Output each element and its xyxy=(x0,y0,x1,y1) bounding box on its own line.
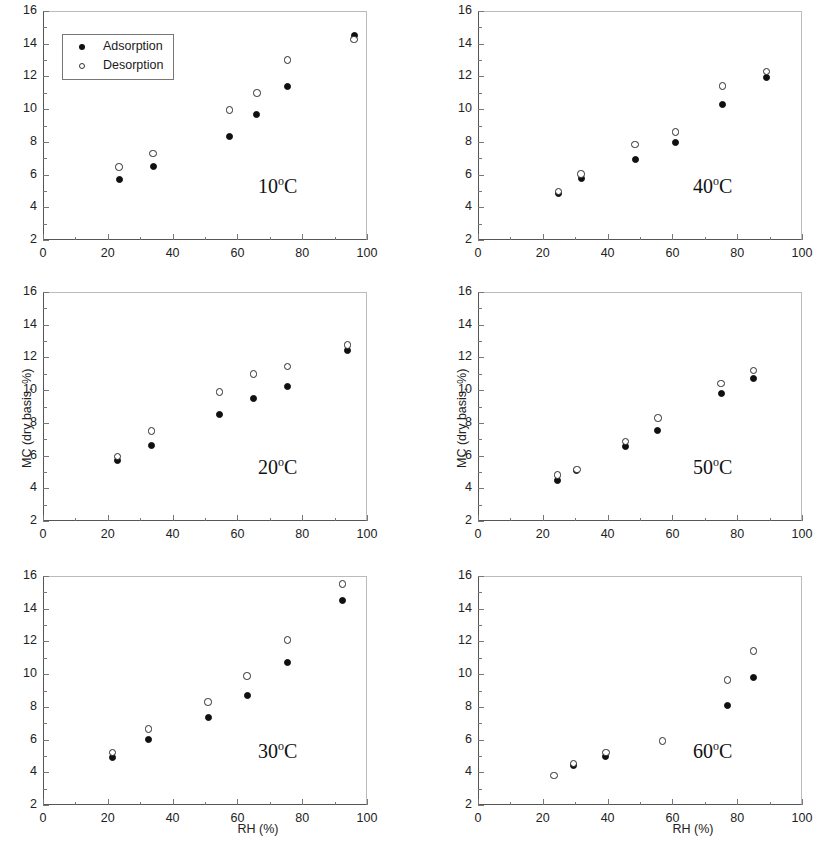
x-tick-label: 100 xyxy=(782,811,822,825)
y-tick xyxy=(478,756,482,757)
y-tick xyxy=(478,723,482,724)
y-tick xyxy=(478,609,484,610)
y-tick-label: 4 xyxy=(450,765,472,778)
y-tick-label: 6 xyxy=(450,733,472,746)
x-tick-label: 40 xyxy=(588,811,628,825)
x-axis-title: RH (%) xyxy=(633,822,753,836)
desorption-point xyxy=(724,676,732,684)
x-tick xyxy=(608,799,609,805)
x-tick xyxy=(672,799,673,805)
x-tick xyxy=(510,802,511,806)
x-axis-title: RH (%) xyxy=(198,822,318,836)
y-tick xyxy=(478,691,482,692)
desorption-point xyxy=(750,647,758,655)
y-tick xyxy=(478,674,484,675)
adsorption-point xyxy=(724,702,731,709)
temperature-value: 60 xyxy=(693,740,713,762)
x-tick-label: 20 xyxy=(523,811,563,825)
desorption-point xyxy=(602,749,610,757)
y-axis-title: MC (dry basis, %) xyxy=(455,369,469,468)
y-tick-label: 2 xyxy=(450,798,472,811)
plot-panel-60c: 02040608010024681012141660oC xyxy=(0,0,829,846)
y-tick xyxy=(478,707,484,708)
y-tick xyxy=(478,805,484,806)
x-tick xyxy=(640,802,641,806)
adsorption-point xyxy=(750,674,757,681)
y-tick xyxy=(478,592,482,593)
y-tick-label: 16 xyxy=(450,569,472,582)
y-tick-label: 14 xyxy=(450,602,472,615)
x-tick-label: 0 xyxy=(458,811,498,825)
x-tick xyxy=(705,802,706,806)
y-tick-label: 8 xyxy=(450,700,472,713)
y-tick xyxy=(478,625,482,626)
desorption-point xyxy=(550,772,558,780)
x-tick xyxy=(575,802,576,806)
y-tick xyxy=(478,789,482,790)
sorption-isotherm-figure: 02040608010024681012141610oCAdsorptionDe… xyxy=(0,0,829,846)
x-tick xyxy=(802,799,803,805)
y-tick xyxy=(478,576,484,577)
y-tick-label: 10 xyxy=(450,667,472,680)
y-tick xyxy=(478,658,482,659)
x-tick xyxy=(543,799,544,805)
y-axis-title: MC (dry basis, %) xyxy=(20,369,34,468)
panel-temperature-label-60c: 60oC xyxy=(693,740,732,763)
y-tick xyxy=(478,740,484,741)
y-tick xyxy=(478,641,484,642)
temperature-scale: C xyxy=(719,740,732,762)
y-tick-label: 12 xyxy=(450,634,472,647)
y-tick xyxy=(478,772,484,773)
x-tick xyxy=(770,802,771,806)
plot-area-60c xyxy=(478,576,802,805)
x-tick xyxy=(737,799,738,805)
